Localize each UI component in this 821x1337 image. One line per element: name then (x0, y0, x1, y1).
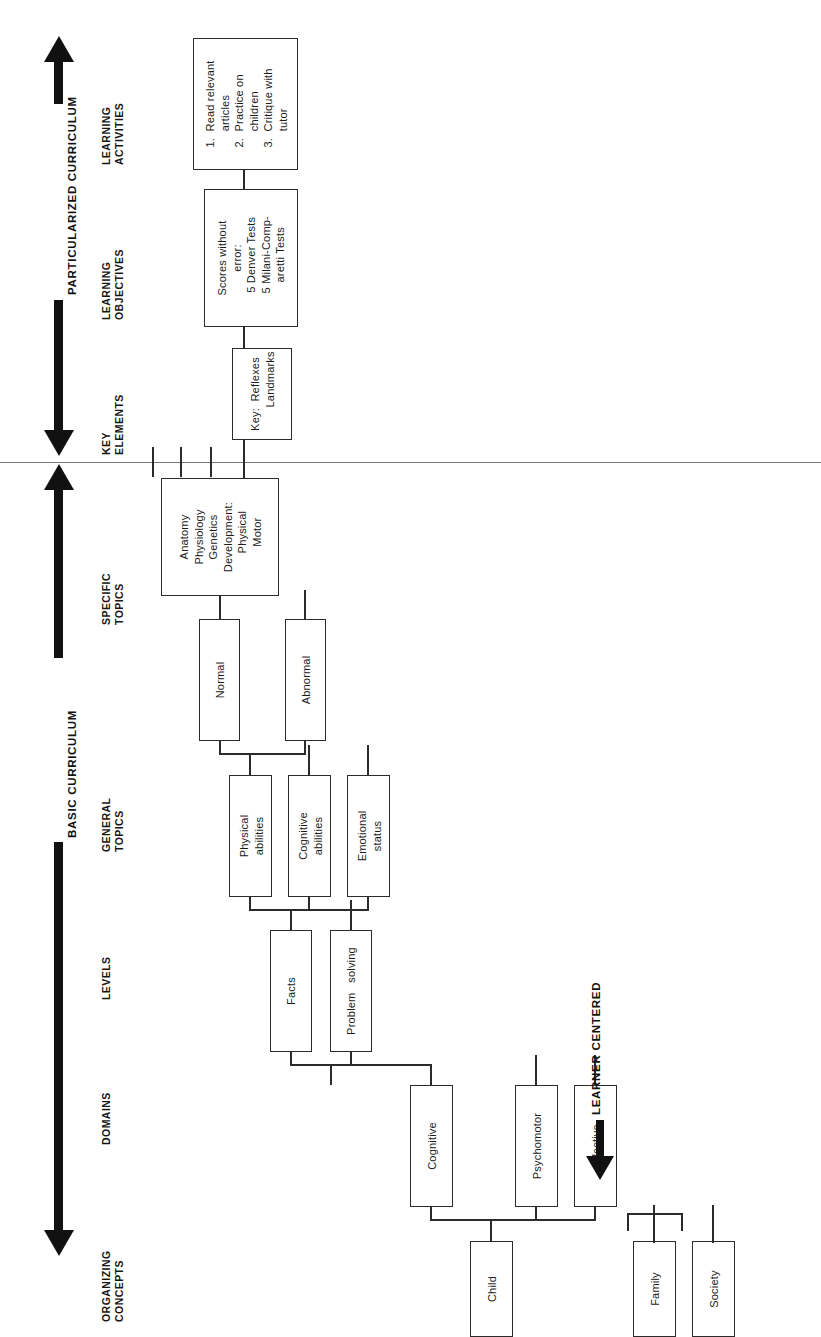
node-child[interactable]: Child (470, 1241, 513, 1337)
connector-society-stub (712, 1205, 714, 1243)
axis-double-arrow-lower-icon (44, 464, 74, 490)
learner-centered-bar (596, 1120, 604, 1158)
connector-cognitive-abilities-stub (308, 745, 310, 776)
connector-psychomotor-stub (535, 1055, 537, 1086)
node-facts[interactable]: Facts (270, 930, 312, 1052)
axis-label-learner-centered: LEARNER CENTERED (590, 982, 602, 1115)
column-label-organizing-concepts: ORGANIZING CONCEPTS (100, 1250, 125, 1322)
connector-bracket-to-facts (290, 909, 292, 930)
divider-tick-2 (180, 447, 182, 477)
column-label-learning-activities: LEARNING ACTIVITIES (100, 103, 125, 165)
column-label-general-topics: GENERAL TOPICS (100, 798, 125, 853)
node-specific-topics[interactable]: Anatomy Physiology Genetics Development:… (161, 478, 279, 596)
basic-curriculum-arrowhead-icon (44, 1230, 74, 1256)
connector-abnormal-stub (304, 590, 306, 620)
node-family[interactable]: Family (633, 1241, 676, 1337)
node-abnormal[interactable]: Abnormal (285, 619, 326, 741)
diagram-canvas: PARTICULARIZED CURRICULUM BASIC CURRICUL… (0, 0, 821, 1337)
node-family-text: Family (647, 1272, 662, 1306)
axis-label-particularized-curriculum: PARTICULARIZED CURRICULUM (66, 96, 78, 295)
node-cognitive[interactable]: Cognitive (410, 1085, 453, 1207)
node-learning-activities[interactable]: 1. Read relevant articles 2. Practice on… (193, 38, 298, 170)
node-cognitive-abilities[interactable]: Cognitive abilities (288, 775, 331, 897)
node-learning-objectives-text: Scores without error: 5 Denver Tests 5 M… (215, 216, 288, 300)
connector-objectives-keyelements (243, 327, 245, 348)
connector-levels-to-cognitive-run (330, 1064, 432, 1066)
node-psychomotor-text: Psychomotor (529, 1113, 544, 1179)
connector-specifictopics-normal (219, 596, 221, 619)
node-learning-activities-text: 1. Read relevant articles 2. Practice on… (202, 60, 289, 147)
axis-bar-mid-1 (54, 488, 63, 658)
column-label-specific-topics: SPECIFIC TOPICS (100, 573, 125, 625)
column-label-levels: LEVELS (100, 956, 113, 1000)
node-cognitive-text: Cognitive (424, 1122, 439, 1170)
connector-family-stub (653, 1205, 655, 1243)
curriculum-divider-line (0, 462, 821, 463)
node-emotional-status-text: Emotional status (354, 811, 383, 862)
column-label-learning-objectives: LEARNING OBJECTIVES (100, 249, 125, 320)
learner-centered-arrowhead-icon (586, 1156, 614, 1180)
axis-bar-mid-2 (54, 842, 63, 1232)
connector-cognitive-top (430, 1064, 432, 1086)
node-society-text: Society (706, 1270, 721, 1307)
column-label-key-elements: KEY ELEMENTS (100, 394, 125, 455)
node-emotional-status[interactable]: Emotional status (347, 775, 390, 897)
node-key-elements[interactable]: Key: Reflexes Landmarks (232, 348, 292, 440)
node-key-elements-text: Key: Reflexes Landmarks (248, 351, 277, 437)
axis-bar-top-1 (54, 60, 63, 104)
node-problem-solving[interactable]: Problem solving (330, 930, 372, 1052)
connector-bracket-to-physical (249, 753, 251, 775)
connector-problem-solving-stub (350, 900, 352, 931)
node-specific-topics-text: Anatomy Physiology Genetics Development:… (177, 502, 264, 572)
divider-tick-3 (210, 447, 212, 477)
node-child-text: Child (484, 1276, 499, 1302)
node-physical-abilities-text: Physical abilities (236, 815, 265, 858)
node-cognitive-abilities-text: Cognitive abilities (295, 812, 324, 860)
connector-bracket-specific-general (219, 753, 306, 755)
node-psychomotor[interactable]: Psychomotor (515, 1085, 558, 1207)
connector-family-bracket-left (627, 1213, 629, 1231)
node-normal-text: Normal (212, 662, 227, 699)
node-physical-abilities[interactable]: Physical abilities (229, 775, 272, 897)
connector-bracket-to-child (490, 1219, 492, 1241)
particularized-curriculum-arrowhead-icon (44, 36, 74, 62)
node-facts-text: Facts (284, 977, 299, 1005)
connector-bracket-domains-concepts (430, 1219, 596, 1221)
node-abnormal-text: Abnormal (298, 656, 313, 705)
node-normal[interactable]: Normal (199, 619, 240, 741)
divider-tick-1 (152, 447, 154, 477)
connector-emotional-status-stub (367, 745, 369, 776)
column-label-domains: DOMAINS (100, 1092, 113, 1145)
axis-label-basic-curriculum: BASIC CURRICULUM (66, 710, 78, 838)
node-society[interactable]: Society (692, 1241, 735, 1337)
node-learning-objectives[interactable]: Scores without error: 5 Denver Tests 5 M… (204, 189, 298, 327)
connector-family-bracket-right (681, 1213, 683, 1231)
node-problem-solving-text: Problem solving (344, 947, 359, 1035)
connector-keyelements-specifictopics (243, 440, 245, 478)
axis-double-arrow-upper-icon (44, 430, 74, 456)
axis-bar-top-2 (54, 300, 63, 430)
connector-bracket-to-cognitive (330, 1064, 332, 1085)
connector-activities-objectives (243, 170, 245, 189)
